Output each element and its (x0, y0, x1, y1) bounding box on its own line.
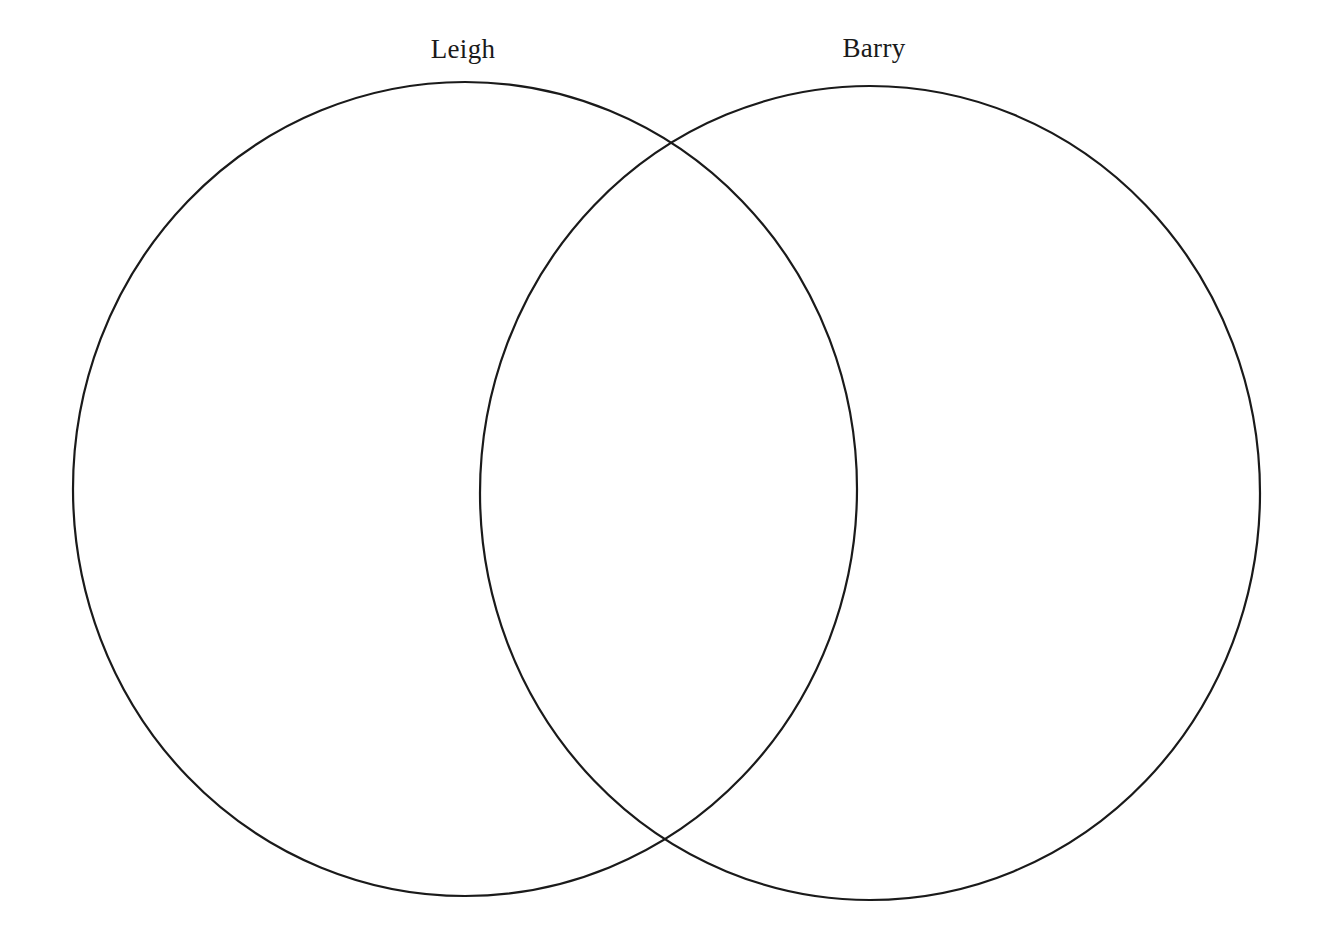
leigh-label: Leigh (431, 34, 495, 65)
barry-circle (480, 86, 1260, 900)
leigh-circle (73, 82, 857, 896)
barry-label: Barry (843, 33, 906, 64)
venn-circles (0, 0, 1328, 943)
venn-diagram: Leigh Barry (0, 0, 1328, 943)
